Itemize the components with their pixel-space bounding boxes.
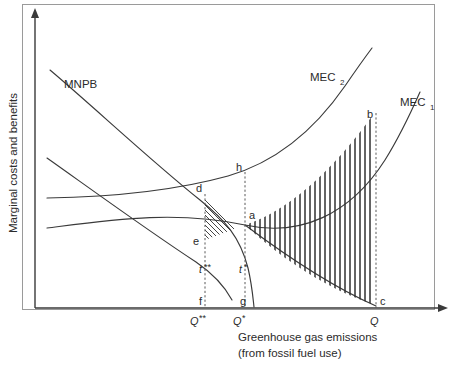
x-tick-q-star: Q *	[233, 313, 246, 327]
x-axis-label-line2: (from fossil fuel use)	[238, 347, 342, 359]
x-tick-sup-2: *	[242, 313, 246, 323]
point-label-h: h	[236, 161, 242, 173]
tax-label-sup-1: **	[204, 262, 212, 272]
mec1-subscript: 1	[430, 103, 435, 112]
tax-label-base-1: t	[199, 263, 203, 275]
region-abc-hatching	[250, 0, 370, 370]
y-axis-arrowhead	[31, 8, 39, 18]
tax-label-t-star: t *	[239, 262, 248, 275]
mec1-label-group: MEC 1	[400, 96, 435, 112]
point-label-b: b	[367, 108, 373, 120]
point-label-e: e	[193, 235, 199, 247]
x-axis-arrowhead	[438, 304, 448, 312]
point-label-a: a	[249, 209, 256, 221]
point-label-c: c	[380, 295, 386, 307]
point-label-g: g	[240, 295, 246, 307]
x-axis-label-line1: Greenhouse gas emissions	[238, 331, 378, 343]
mec2-label-group: MEC 2	[310, 71, 345, 87]
x-tick-q: Q	[370, 315, 379, 327]
mec2-subscript: 2	[340, 78, 345, 87]
mec2-label: MEC	[310, 71, 336, 83]
tax-label-base-2: t	[239, 263, 243, 275]
mnpb-label: MNPB	[64, 78, 98, 90]
x-tick-sup-1: **	[199, 313, 207, 323]
x-tick-base-2: Q	[233, 315, 242, 327]
x-tick-q-double-star: Q **	[190, 313, 207, 327]
y-axis-label: Marginal costs and benefits	[7, 93, 19, 233]
figure-border	[23, 5, 435, 310]
mec1-curve	[47, 92, 420, 228]
x-tick-base-3: Q	[370, 315, 379, 327]
point-label-d: d	[196, 182, 202, 194]
mnpb-lower-curve	[47, 158, 232, 300]
economics-diagram-figure: MNPB MEC 2 MEC 1 d h a e b c f g t ** t …	[0, 0, 458, 370]
x-tick-base-1: Q	[190, 315, 199, 327]
point-label-f: f	[199, 295, 203, 307]
mnpb-curve	[50, 70, 254, 307]
mec1-label: MEC	[400, 96, 426, 108]
tax-label-sup-2: *	[244, 262, 248, 272]
